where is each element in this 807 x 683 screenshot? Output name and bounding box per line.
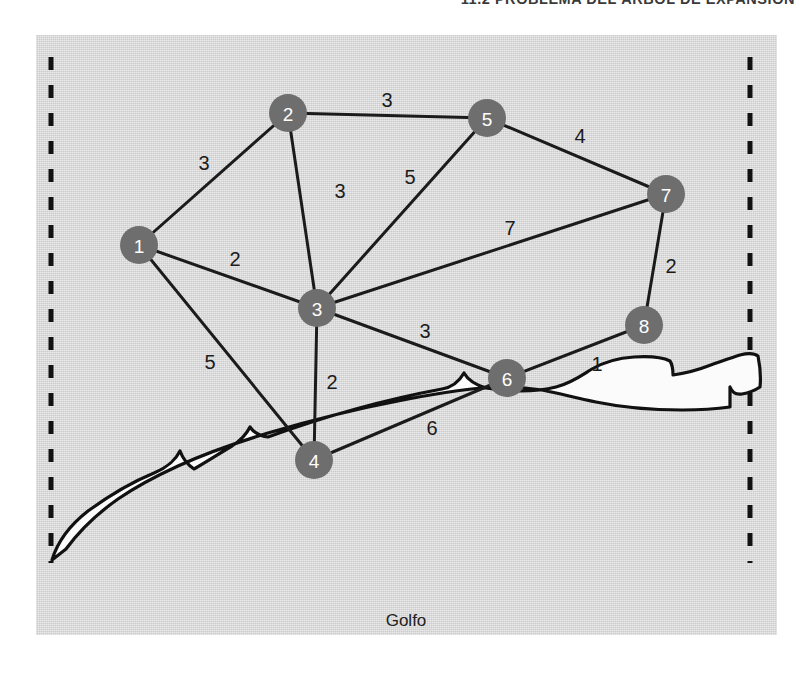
node-8-label: 8 (639, 316, 650, 337)
gulf-label: Golfo (386, 611, 427, 630)
edge-2-5 (288, 113, 487, 118)
edge-weight-3-6: 3 (419, 320, 430, 342)
edge-1-2 (139, 113, 288, 245)
edge-weight-4-6: 6 (426, 417, 437, 439)
figure-page: 11.2 PROBLEMA DEL ÁRBOL DE EXPANSIÓN (0, 0, 807, 683)
network-diagram-svg: 3 2 5 3 3 5 2 3 7 4 2 1 6 (36, 35, 777, 635)
edge-weight-3-5: 5 (404, 166, 415, 188)
coastline-shape (52, 354, 760, 560)
edge-2-3 (288, 113, 317, 308)
edge-weight-1-3: 2 (229, 248, 240, 270)
edges-group (139, 113, 666, 460)
edge-weight-5-7: 4 (574, 125, 585, 147)
edge-weight-2-3: 3 (334, 180, 345, 202)
edge-weight-1-4: 5 (204, 351, 215, 373)
node-3-label: 3 (312, 299, 323, 320)
edge-weight-1-2: 3 (198, 152, 209, 174)
edge-7-8 (644, 194, 666, 325)
node-6-label: 6 (502, 369, 513, 390)
node-2-label: 2 (283, 104, 294, 125)
edge-weight-2-5: 3 (381, 89, 392, 111)
edge-weight-6-8: 1 (591, 353, 602, 375)
running-head: 11.2 PROBLEMA DEL ÁRBOL DE EXPANSIÓN (0, 0, 795, 5)
node-7-label: 7 (661, 185, 672, 206)
edge-weight-3-7: 7 (504, 217, 515, 239)
coastline-group (52, 354, 760, 560)
edge-4-6 (314, 378, 507, 460)
network-figure-panel: 3 2 5 3 3 5 2 3 7 4 2 1 6 (36, 35, 777, 635)
node-4-label: 4 (309, 451, 320, 472)
edge-weight-7-8: 2 (665, 255, 676, 277)
edge-weight-3-4: 2 (326, 371, 337, 393)
node-1-label: 1 (134, 236, 145, 257)
edge-3-4 (314, 308, 317, 460)
node-5-label: 5 (482, 109, 493, 130)
edge-3-6 (317, 308, 507, 378)
